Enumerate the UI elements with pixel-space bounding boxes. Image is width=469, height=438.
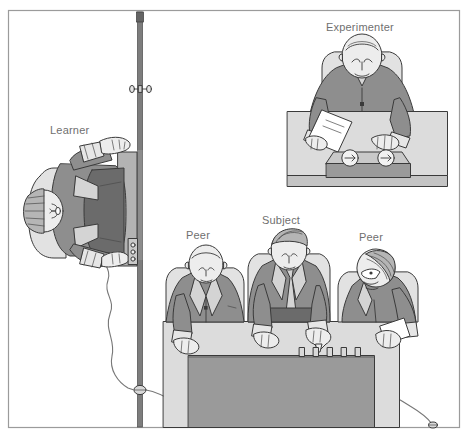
shock-generator-console bbox=[189, 356, 375, 428]
learner-electrode bbox=[129, 239, 138, 265]
gauge-right bbox=[378, 150, 394, 166]
door-handle-icon bbox=[130, 85, 152, 92]
floor-wire-plug bbox=[429, 422, 438, 428]
label-experimenter: Experimenter bbox=[326, 21, 394, 33]
shock-switch-1 bbox=[300, 348, 305, 357]
shock-switch-5 bbox=[356, 348, 361, 357]
shock-switch-4 bbox=[342, 348, 347, 357]
partition-wall bbox=[137, 12, 144, 427]
label-peer-right: Peer bbox=[359, 231, 383, 243]
meter-box bbox=[326, 150, 411, 178]
shock-switch-2 bbox=[314, 348, 319, 357]
milgram-experiment-illustration: .ol{stroke:#3a3a3a;stroke-width:1;stroke… bbox=[0, 0, 469, 438]
gauge-left bbox=[342, 150, 358, 166]
label-peer-left: Peer bbox=[186, 229, 210, 241]
learner-head bbox=[24, 189, 64, 233]
shock-switch-3 bbox=[328, 348, 333, 357]
label-subject: Subject bbox=[262, 214, 300, 226]
illustration-canvas: .ol{stroke:#3a3a3a;stroke-width:1;stroke… bbox=[0, 0, 469, 438]
wall-wire-pass-through bbox=[134, 385, 146, 394]
label-learner: Learner bbox=[50, 124, 89, 136]
